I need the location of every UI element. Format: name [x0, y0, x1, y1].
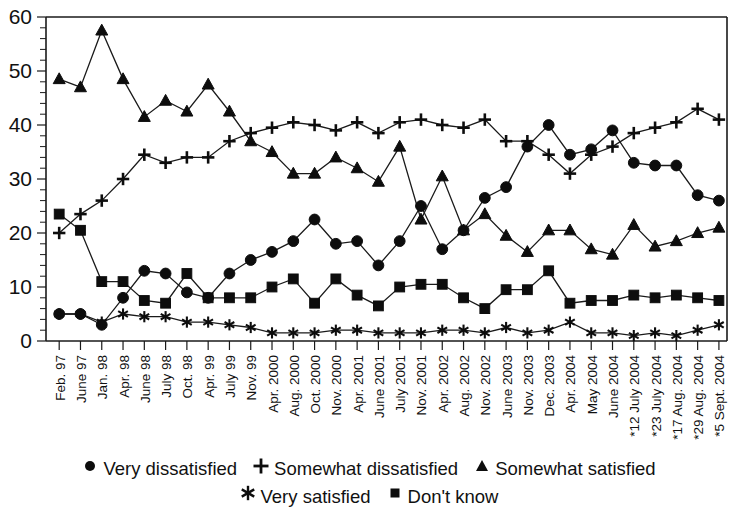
data-point-square: [437, 279, 447, 289]
y-axis-tick-label: 60: [9, 5, 32, 28]
data-point-circle: [565, 149, 576, 160]
data-point-square: [586, 296, 596, 306]
x-axis-tick-label: Nov. 2000: [329, 355, 344, 416]
data-point-square: [182, 269, 192, 279]
x-axis-tick-label: Apr. 99: [202, 355, 217, 398]
y-axis-tick-label: 50: [9, 59, 32, 82]
data-point-circle: [650, 160, 661, 171]
x-axis-tick-label: Oct. 2000: [308, 355, 323, 414]
legend-item: Don't know: [385, 483, 499, 511]
legend-item: Somewhat satisfied: [472, 455, 655, 483]
data-point-square: [714, 296, 724, 306]
series-line-star: [59, 314, 719, 336]
data-point-circle: [330, 238, 341, 249]
y-axis-tick-label: 0: [20, 329, 32, 352]
data-point-square: [650, 293, 660, 303]
x-axis-tick-label: Nov. 99: [244, 355, 259, 401]
data-point-triangle: [394, 140, 406, 151]
data-point-triangle: [202, 78, 214, 89]
data-point-square: [161, 298, 171, 308]
data-point-triangle: [53, 73, 65, 84]
data-point-square: [76, 225, 86, 235]
data-point-square: [629, 290, 639, 300]
data-point-square: [118, 277, 128, 287]
x-axis-tick-label: June 2001: [372, 355, 387, 418]
data-point-triangle: [160, 94, 172, 105]
triangle-marker-icon: [472, 456, 492, 483]
data-point-circle: [309, 214, 320, 225]
data-point-triangle: [564, 224, 576, 235]
data-point-circle: [267, 247, 278, 258]
data-point-triangle: [436, 170, 448, 181]
data-point-circle: [139, 265, 150, 276]
data-point-square: [480, 304, 490, 314]
chart-plot-area: 0102030405060Feb. 97June 97Jan. 98Apr. 9…: [0, 0, 736, 517]
data-point-square: [544, 266, 554, 276]
data-point-triangle: [351, 162, 363, 173]
data-point-circle: [437, 244, 448, 255]
data-point-triangle: [245, 135, 257, 146]
data-point-square: [225, 293, 235, 303]
data-point-square: [310, 298, 320, 308]
series-line-circle: [59, 125, 719, 325]
x-axis-tick-label: July 99: [223, 355, 238, 398]
legend-item: Very satisfied: [238, 483, 371, 511]
square-marker-icon: [385, 483, 405, 510]
chart-legend: Very dissatisfiedSomewhat dissatisfiedSo…: [0, 455, 736, 510]
x-axis-tick-label: *17 Aug. 2004: [670, 355, 685, 440]
x-axis-tick-label: Dec. 2003: [542, 355, 557, 417]
data-point-circle: [671, 160, 682, 171]
legend-item-label: Very dissatisfied: [103, 458, 237, 479]
data-point-square: [501, 285, 511, 295]
legend-row: Very dissatisfiedSomewhat dissatisfiedSo…: [0, 455, 736, 483]
data-point-circle: [692, 190, 703, 201]
x-axis-tick-label: *12 July 2004: [627, 355, 642, 437]
series-line-square: [59, 214, 719, 309]
x-axis-tick-label: June 2003: [500, 355, 515, 418]
data-point-triangle: [543, 224, 555, 235]
data-point-square: [416, 279, 426, 289]
data-point-square: [395, 282, 405, 292]
x-axis-tick-label: Apr. 2000: [266, 355, 281, 413]
data-point-triangle: [96, 24, 108, 35]
x-axis-tick-label: July 98: [159, 355, 174, 398]
data-point-triangle: [309, 167, 321, 178]
legend-item: Very dissatisfied: [80, 455, 237, 483]
x-axis-tick-label: Nov. 2002: [478, 355, 493, 416]
data-point-circle: [479, 193, 490, 204]
data-point-square: [246, 293, 256, 303]
x-axis-tick-label: July 2001: [393, 355, 408, 413]
data-point-circle: [607, 125, 618, 136]
data-point-circle: [352, 236, 363, 247]
data-point-square: [459, 293, 469, 303]
data-point-square: [522, 285, 532, 295]
x-axis-tick-label: June 98: [138, 355, 153, 403]
x-axis-tick-label: Apr. 2004: [563, 355, 578, 413]
x-axis-tick-label: Aug. 2002: [457, 355, 472, 417]
data-point-square: [352, 290, 362, 300]
data-point-triangle: [372, 175, 384, 186]
data-point-triangle: [266, 146, 278, 157]
data-point-circle: [416, 201, 427, 212]
plus-marker-icon: [251, 456, 271, 483]
data-point-triangle: [330, 151, 342, 162]
data-point-triangle: [670, 235, 682, 246]
legend-row: Very satisfiedDon't know: [0, 483, 736, 511]
legend-item-label: Don't know: [408, 486, 499, 507]
data-point-circle: [118, 292, 129, 303]
data-point-circle: [245, 255, 256, 266]
data-point-circle: [288, 236, 299, 247]
data-point-circle: [373, 260, 384, 271]
data-point-square: [608, 296, 618, 306]
x-axis-tick-label: June 97: [74, 355, 89, 403]
data-point-square: [203, 293, 213, 303]
y-axis-tick-label: 30: [9, 167, 32, 190]
x-axis-tick-label: Jan. 98: [95, 355, 110, 399]
data-point-square: [139, 296, 149, 306]
x-axis-tick-label: Apr. 98: [117, 355, 132, 398]
data-point-triangle: [585, 243, 597, 254]
data-point-square: [374, 301, 384, 311]
data-point-triangle: [74, 81, 86, 92]
legend-item: Somewhat dissatisfied: [251, 455, 458, 483]
data-point-circle: [224, 268, 235, 279]
